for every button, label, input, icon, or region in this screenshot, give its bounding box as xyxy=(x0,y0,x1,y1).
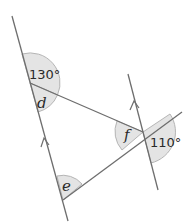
angle-110-label: 110° xyxy=(150,135,181,150)
geometry-diagram: 130° d e f 110° xyxy=(0,0,190,222)
angle-e-label: e xyxy=(62,177,71,195)
angle-130-label: 130° xyxy=(29,67,60,82)
angle-d-label: d xyxy=(37,94,47,112)
left-parallel-line xyxy=(12,16,68,221)
parallel-arrow-icon xyxy=(130,101,139,110)
